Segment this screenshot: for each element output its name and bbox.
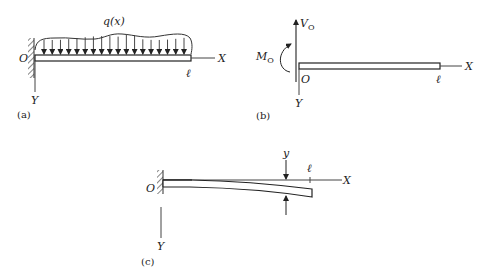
- panel-a: q(x) O X Y ℓ (a): [17, 15, 227, 120]
- fixed-wall-support: [157, 170, 163, 194]
- deflection-label: y: [282, 147, 290, 160]
- origin-label: O: [301, 73, 310, 86]
- origin-label: O: [146, 182, 155, 195]
- x-axis-label: X: [342, 174, 352, 187]
- panel-label-b: (b): [256, 110, 270, 121]
- length-label: ℓ: [436, 73, 441, 86]
- length-label: ℓ: [186, 67, 191, 80]
- load-arrows: [44, 34, 184, 54]
- y-axis-label: Y: [295, 97, 304, 110]
- origin-label: O: [19, 52, 28, 65]
- length-label: ℓ: [307, 162, 312, 175]
- x-axis-label: X: [217, 52, 227, 65]
- panel-label-a: (a): [17, 109, 31, 120]
- panel-label-c: (c): [141, 256, 155, 267]
- y-axis-label: Y: [157, 240, 166, 253]
- moment-label: MO: [255, 50, 274, 65]
- x-axis-label: X: [464, 60, 474, 73]
- panel-c: y ℓ O X Y (c): [141, 147, 352, 267]
- y-axis-label: Y: [31, 94, 40, 107]
- load-label: q(x): [103, 15, 125, 28]
- deflected-beam: [163, 180, 312, 197]
- beam: [35, 55, 191, 61]
- fixed-wall-support: [28, 38, 34, 78]
- moment-arrow: [280, 44, 291, 72]
- distributed-load-curve: [35, 34, 192, 54]
- beam: [299, 63, 440, 69]
- shear-label: VO: [300, 17, 315, 32]
- beam-diagram: q(x) O X Y ℓ (a) VO MO O X Y ℓ (b): [0, 0, 490, 274]
- panel-b: VO MO O X Y ℓ (b): [255, 17, 474, 121]
